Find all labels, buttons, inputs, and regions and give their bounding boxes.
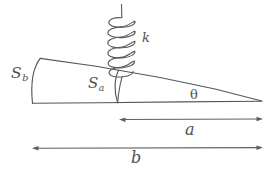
- spring-coil-6: [109, 61, 134, 77]
- dimension-b-arrow-right: [257, 145, 264, 150]
- label-s-b: Sb: [11, 66, 28, 82]
- wedge-hypotenuse-edge: [40, 58, 262, 101]
- dimension-b-shaft: [34, 148, 261, 149]
- spring-coil-2: [108, 21, 135, 37]
- dimension-line-b: [32, 145, 263, 150]
- label-dimension-a: a: [185, 122, 195, 138]
- arc-s-b: [32, 58, 40, 103]
- label-s-a-main: S: [88, 74, 98, 92]
- label-angle-theta: θ: [190, 88, 198, 101]
- label-dimension-b: b: [131, 150, 141, 166]
- wedge-base-edge: [33, 101, 262, 103]
- dimension-a-arrow-right: [257, 117, 264, 122]
- diagram-canvas: Sb Sa k θ a b: [0, 0, 278, 172]
- coil-spring: [108, 5, 135, 103]
- label-s-b-main: S: [11, 64, 22, 82]
- label-s-a-subscript: a: [99, 82, 105, 93]
- spring-coil-1: [109, 18, 135, 28]
- label-s-b-subscript: b: [22, 72, 28, 83]
- label-spring-constant-k: k: [142, 31, 150, 44]
- spring-coil-5: [108, 51, 135, 68]
- spring-coil-3: [108, 31, 135, 48]
- spring-coil-4: [108, 41, 135, 58]
- dimension-a-arrow-left: [119, 117, 126, 122]
- label-s-a: Sa: [88, 76, 104, 91]
- diagram-vector-layer: [0, 0, 278, 172]
- spring-bottom-stem: [118, 77, 122, 103]
- dimension-b-arrow-left: [32, 146, 39, 151]
